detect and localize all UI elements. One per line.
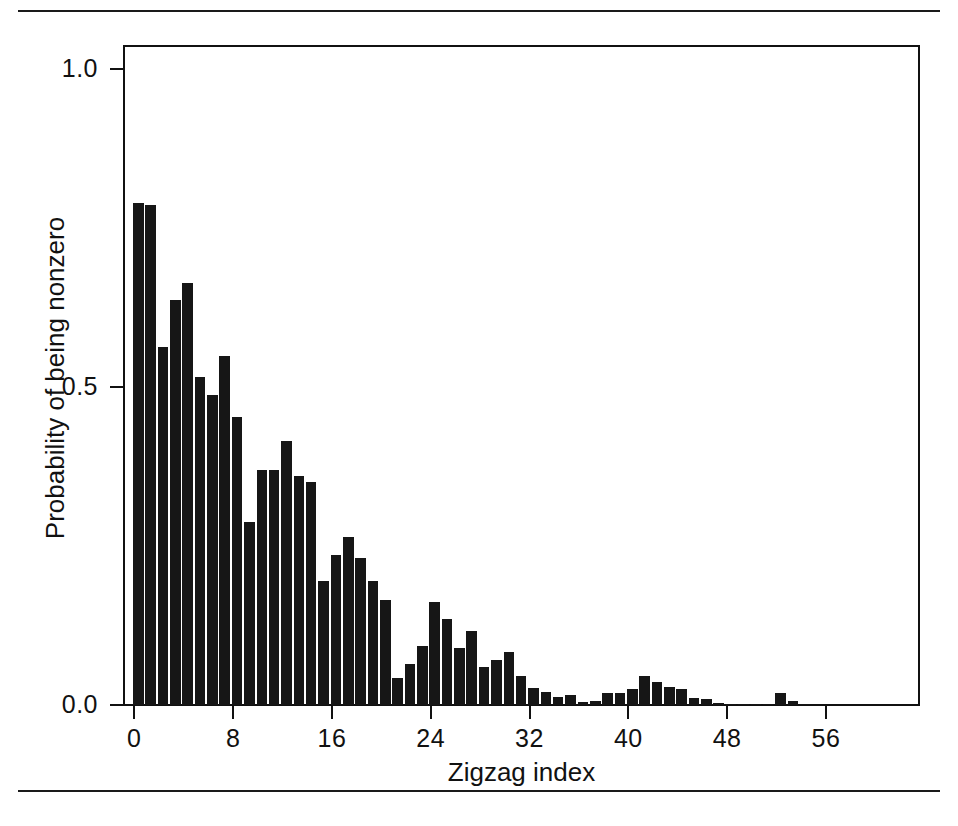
bar (565, 695, 576, 705)
bar (528, 688, 539, 705)
bar-series-layer (125, 47, 918, 705)
bar (454, 648, 465, 705)
bar (516, 676, 527, 705)
x-axis-tick-label: 40 (588, 724, 668, 752)
x-axis-tick-label: 56 (786, 724, 866, 752)
x-axis-tick-label: 8 (193, 724, 273, 752)
bar (701, 699, 712, 705)
bar (133, 203, 144, 705)
x-axis-tick (627, 706, 629, 719)
bar (380, 600, 391, 705)
bar (368, 581, 379, 705)
bar (257, 470, 268, 705)
bar (392, 678, 403, 705)
bar (763, 704, 774, 705)
x-axis-tick (232, 706, 234, 719)
y-axis-title: Probability of being nonzero (40, 48, 70, 708)
bar (244, 522, 255, 705)
bar (355, 558, 366, 705)
bar (726, 704, 737, 705)
bar (738, 704, 749, 705)
bar (578, 702, 589, 705)
bar (751, 704, 762, 705)
bar (405, 664, 416, 705)
bar (219, 356, 230, 705)
x-axis-title: Zigzag index (123, 757, 920, 787)
x-axis-tick (331, 706, 333, 719)
bar (318, 581, 329, 705)
bar (306, 482, 317, 705)
bar (145, 205, 156, 705)
bar (158, 347, 169, 705)
bar (553, 697, 564, 705)
bar (417, 646, 428, 705)
bar (541, 692, 552, 705)
bar (689, 698, 700, 705)
bar (676, 689, 687, 705)
bar (232, 417, 243, 705)
bar (429, 602, 440, 705)
bar (590, 701, 601, 705)
x-axis-tick (430, 706, 432, 719)
x-axis-tick (825, 706, 827, 719)
bar (269, 470, 280, 705)
bar (182, 283, 193, 705)
bar (281, 441, 292, 705)
bar (294, 476, 305, 705)
bar (664, 687, 675, 705)
y-axis-tick (110, 386, 123, 388)
bar (652, 682, 663, 705)
bar (504, 652, 515, 705)
x-axis-tick-label: 24 (391, 724, 471, 752)
bar (491, 660, 502, 705)
bar (800, 704, 811, 705)
x-axis-tick (133, 706, 135, 719)
bar (479, 667, 490, 705)
bar (331, 555, 342, 705)
bar (775, 693, 786, 705)
bar (627, 689, 638, 705)
page-rule-bottom-divider (18, 790, 940, 792)
bar (602, 693, 613, 705)
bar (343, 537, 354, 705)
bar (195, 377, 206, 705)
y-axis-tick (110, 68, 123, 70)
bar (788, 701, 799, 705)
y-axis-tick (110, 704, 123, 706)
bar (713, 703, 724, 705)
x-axis-tick-label: 48 (687, 724, 767, 752)
x-axis-tick (726, 706, 728, 719)
bar (170, 300, 181, 705)
bar (615, 693, 626, 705)
page-rule-top-divider (18, 10, 940, 12)
bar (466, 631, 477, 705)
x-axis-tick-label: 0 (94, 724, 174, 752)
bar (639, 676, 650, 705)
bar (442, 619, 453, 705)
x-axis-tick (529, 706, 531, 719)
bar (207, 395, 218, 705)
figure-canvas: 0.00.51.0 08162432404856 Zigzag index Pr… (0, 0, 958, 826)
x-axis-tick-label: 32 (490, 724, 570, 752)
x-axis-tick-label: 16 (292, 724, 372, 752)
